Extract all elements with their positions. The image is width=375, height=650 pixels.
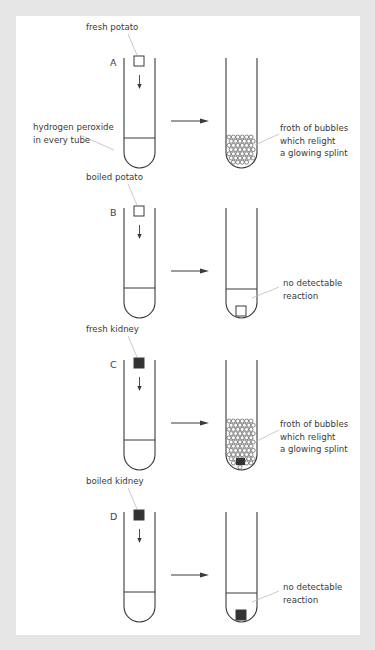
- tube-letter-c: C: [110, 359, 117, 370]
- result-leader-line-a: [255, 134, 279, 145]
- catalase-experiment-diagram: [0, 0, 375, 650]
- reaction-arrowhead-b: [200, 269, 209, 274]
- test-tube-after-d: [226, 512, 257, 622]
- sunk-sample-d: [236, 610, 246, 620]
- drop-arrowhead-b: [137, 234, 141, 239]
- result-leader-line-c: [255, 430, 279, 442]
- test-tube-before-b: [124, 208, 155, 318]
- result-label-d: no detectable reaction: [283, 581, 342, 606]
- sample-leader-line-d: [128, 488, 137, 509]
- test-tube-before-a: [124, 58, 155, 168]
- reaction-arrowhead-a: [200, 119, 209, 124]
- sample-leader-line-c: [128, 336, 137, 357]
- result-label-c: froth of bubbles which relight a glowing…: [280, 418, 348, 456]
- sample-label-b: boiled potato: [86, 171, 143, 184]
- sample-piece-b: [134, 206, 144, 216]
- sample-piece-a: [134, 56, 144, 66]
- sample-leader-line-b: [128, 184, 137, 205]
- sunk-sample-b: [236, 306, 246, 316]
- bubble-froth-a: [227, 135, 255, 164]
- sample-label-c: fresh kidney: [86, 323, 139, 336]
- reaction-arrowhead-c: [200, 421, 209, 426]
- sample-label-a: fresh potato: [86, 21, 138, 34]
- test-tube-after-b: [226, 208, 257, 318]
- sample-label-d: boiled kidney: [86, 475, 144, 488]
- hydrogen-peroxide-label: hydrogen peroxide in every tube: [33, 121, 114, 146]
- tube-letter-a: A: [110, 57, 117, 68]
- tube-letter-d: D: [110, 511, 117, 522]
- sample-leader-line-a: [128, 34, 137, 55]
- drop-arrowhead-a: [137, 84, 141, 89]
- drop-arrowhead-c: [137, 386, 141, 391]
- sample-piece-c: [134, 358, 144, 368]
- result-label-b: no detectable reaction: [283, 277, 342, 302]
- reaction-arrowhead-d: [200, 573, 209, 578]
- test-tube-before-d: [124, 512, 155, 622]
- sunk-sample-c: [236, 458, 245, 465]
- drop-arrowhead-d: [137, 538, 141, 543]
- sample-piece-d: [134, 510, 144, 520]
- tube-letter-b: B: [110, 207, 117, 218]
- result-label-a: froth of bubbles which relight a glowing…: [280, 122, 348, 160]
- test-tube-before-c: [124, 360, 155, 470]
